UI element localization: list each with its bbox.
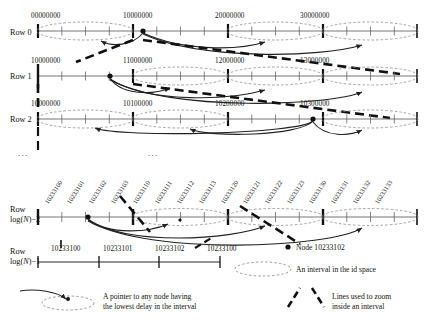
node-dot-icon: [85, 214, 90, 219]
zoom-dashed-lines-icon: [312, 288, 324, 307]
row-0-axis: [37, 22, 418, 54]
node-dot-icon: [66, 297, 70, 301]
node-dot-icon: [285, 244, 290, 249]
pointer-arrow-icon: [88, 221, 362, 245]
pointer-arrow-icon: [20, 290, 66, 299]
node-dot-icon: [140, 28, 145, 33]
diagram-graphics: [0, 0, 427, 326]
zoom-dashed-lines-icon: [288, 288, 300, 307]
node-dot-icon: [107, 73, 112, 78]
pointer-arrow-icon: [88, 220, 265, 238]
row-logn-2-axis: [38, 209, 418, 246]
row-1-axis: [38, 64, 418, 103]
pointer-arrow-icon: [313, 122, 362, 134]
node-dot-icon: [178, 218, 181, 221]
pointer-arrow-icon: [110, 80, 362, 103]
legend-interval-marker: [235, 262, 291, 276]
node-dot-icon: [310, 116, 315, 121]
zoom-lines-into-rowlogn2: [38, 127, 300, 244]
zoom-lines-row0-row1: [76, 40, 400, 74]
zoom-dashed-lines-icon: [120, 196, 150, 232]
legend-node-marker: [285, 244, 290, 249]
zoom-dashed-lines-icon: [133, 84, 390, 118]
pointer-arrow-icon: [88, 219, 168, 231]
legend-pointer-marker: [20, 290, 94, 310]
dashed-ellipse-icon: [235, 262, 291, 276]
zoom-dashed-lines-icon: [195, 237, 213, 248]
figure-canvas: Row 0 00000000 10000000 20000000 3000000…: [0, 0, 427, 326]
legend-zoom-marker: [288, 288, 324, 307]
row-logn-1-axis: [38, 237, 220, 268]
